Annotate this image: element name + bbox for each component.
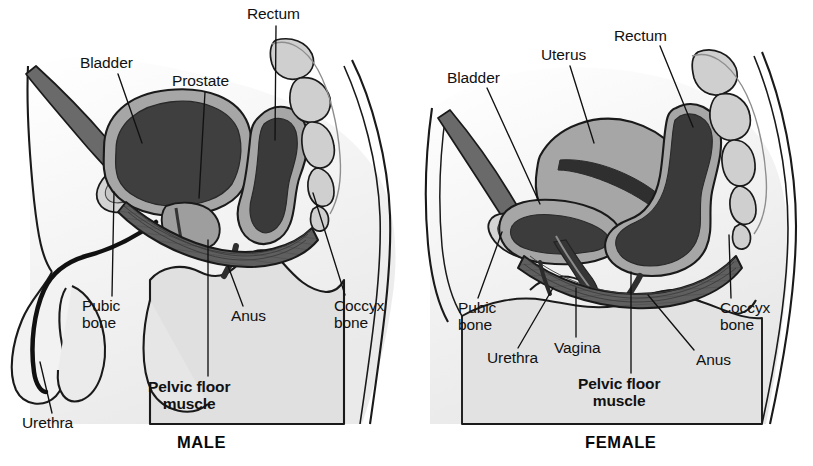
pelvic-floor-anatomy-figure: Bladder Prostate Rectum Pubic bone Anus … [0,0,813,466]
female-diagram [426,46,796,424]
male-label-bladder: Bladder [80,55,133,72]
female-caption: FEMALE [585,433,656,452]
male-label-pubic-bone: Pubic bone [82,298,120,331]
male-label-rectum: Rectum [247,6,300,23]
female-label-uterus: Uterus [541,47,586,64]
male-label-prostate: Prostate [172,73,229,90]
male-label-urethra: Urethra [22,415,73,432]
female-label-bladder: Bladder [447,70,500,87]
female-label-vagina: Vagina [554,340,601,357]
male-label-anus: Anus [231,308,266,325]
male-caption: MALE [177,433,226,452]
female-label-pelvic-floor-muscle: Pelvic floor muscle [578,376,660,409]
male-label-pelvic-floor-muscle: Pelvic floor muscle [148,379,230,412]
female-label-pubic-bone: Pubic bone [458,300,496,333]
female-label-coccyx-bone: Coccyx bone [720,300,770,333]
female-label-urethra: Urethra [487,350,538,367]
male-label-coccyx-bone: Coccyx bone [334,298,384,331]
male-bladder-lumen [116,101,241,206]
female-label-anus: Anus [696,352,731,369]
female-label-rectum: Rectum [614,28,667,45]
